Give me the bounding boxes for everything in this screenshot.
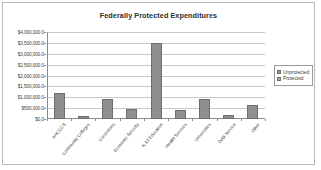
x-axis-category-label: Debt Service: [216, 122, 236, 144]
y-axis-tick: [44, 32, 46, 33]
y-axis-tick: [44, 65, 46, 66]
chart-title: Federally Protected Expenditures: [3, 11, 314, 20]
y-axis-tick-label: $1,500,000.0: [18, 84, 44, 89]
x-axis-tick: [120, 119, 121, 121]
y-axis-tick-label: $4,000,000.0: [18, 30, 44, 35]
x-axis-category-label: K-12 Education: [141, 122, 164, 148]
y-axis-tick: [44, 97, 46, 98]
x-axis-category-label: Health Services: [164, 122, 188, 149]
x-axis-tick: [168, 119, 169, 121]
x-axis-category-label: Universities: [194, 122, 212, 143]
chart-legend: UnprotectedProtected: [274, 65, 313, 86]
bars-layer: [47, 32, 265, 119]
x-axis-tick: [217, 119, 218, 121]
x-axis-tick: [144, 119, 145, 121]
chart-frame: Federally Protected Expenditures $4,000,…: [2, 2, 315, 165]
x-axis-tick: [241, 119, 242, 121]
x-axis-labels: AHCCCSCommunity CollegesCorrectionsEcono…: [47, 122, 265, 166]
y-axis-tick: [44, 119, 46, 120]
legend-label: Protected: [283, 76, 304, 81]
x-axis-tick: [95, 119, 96, 121]
bar: [175, 110, 186, 119]
y-axis-tick: [44, 43, 46, 44]
x-axis-tick: [47, 119, 48, 121]
y-axis-tick-label: $0.0: [35, 117, 44, 122]
y-axis-tick: [44, 54, 46, 55]
x-axis-category-label: Other: [250, 122, 261, 134]
y-axis-tick: [44, 86, 46, 87]
y-axis-labels: $4,000,000.0$3,500,000.0$3,000,000.0$2,5…: [5, 32, 46, 119]
bar: [199, 99, 210, 119]
bar: [126, 109, 137, 119]
legend-item: Unprotected: [277, 70, 309, 75]
chart-screenshot: Federally Protected Expenditures $4,000,…: [0, 0, 321, 170]
x-axis-tick: [192, 119, 193, 121]
x-axis-category-label: AHCCCS: [51, 122, 67, 140]
y-axis-tick-label: $500,000.0: [22, 106, 45, 111]
y-axis-tick-label: $2,500,000.0: [18, 62, 44, 67]
bar: [102, 99, 113, 119]
bar: [151, 43, 162, 119]
y-axis-tick-label: $3,500,000.0: [18, 40, 44, 45]
y-axis-tick-label: $1,000,000.0: [18, 95, 44, 100]
x-axis-category-label: Corrections: [97, 122, 115, 142]
legend-swatch-icon: [277, 70, 281, 74]
x-axis-category-label: Community Colleges: [61, 122, 91, 156]
legend-item: Protected: [277, 76, 309, 81]
bar: [54, 93, 65, 119]
x-axis-category-label: Economic Security: [112, 122, 139, 153]
y-axis-tick-label: $3,000,000.0: [18, 51, 44, 56]
x-axis-tick: [265, 119, 266, 121]
y-axis-tick: [44, 108, 46, 109]
bar: [247, 105, 258, 119]
legend-label: Unprotected: [283, 70, 309, 75]
y-axis-tick-label: $2,000,000.0: [18, 73, 44, 78]
y-axis-tick: [44, 76, 46, 77]
x-axis-tick: [71, 119, 72, 121]
legend-swatch-icon: [277, 77, 281, 81]
